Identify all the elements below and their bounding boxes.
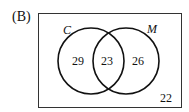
set-c-label: C xyxy=(63,24,71,36)
m-only-count: 26 xyxy=(132,55,144,67)
outside-count: 22 xyxy=(160,92,172,104)
intersection-count: 23 xyxy=(101,55,113,67)
set-m-label: M xyxy=(147,23,157,35)
set-c-circle xyxy=(58,28,124,94)
option-label: (B) xyxy=(12,11,31,23)
c-only-count: 29 xyxy=(72,55,84,67)
